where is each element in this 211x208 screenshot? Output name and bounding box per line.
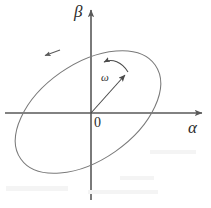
origin-label: 0 <box>94 116 101 130</box>
diagram-svg <box>0 0 211 208</box>
beta-axis-label: β <box>74 3 82 20</box>
figure-canvas: β α 0 ω <box>0 0 211 208</box>
alpha-axis-label: α <box>188 119 197 136</box>
ellipse-direction-arrowhead-icon <box>45 50 60 56</box>
omega-label: ω <box>101 72 109 83</box>
